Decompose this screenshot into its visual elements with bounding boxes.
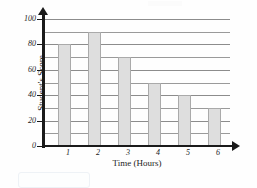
y-axis-arrow — [38, 7, 48, 15]
bar-3 — [118, 57, 131, 146]
y-axis-title-holder: Student's Score — [22, 20, 36, 140]
x-tick-label-2: 2 — [88, 148, 108, 157]
bar-6 — [208, 108, 221, 146]
x-tick-label-6: 6 — [208, 148, 228, 157]
x-tick-label-1: 1 — [58, 148, 78, 157]
bar-1 — [58, 44, 71, 146]
bar-2 — [88, 32, 101, 146]
footer-placeholder-box — [18, 172, 90, 188]
y-tick-0 — [37, 146, 44, 147]
chart-screenshot: 100 80 60 40 20 0 1 2 3 4 5 6 Time (Hour… — [0, 0, 257, 188]
bar-4 — [148, 83, 161, 147]
scan-artifact — [148, 1, 182, 6]
x-tick-label-3: 3 — [118, 148, 138, 157]
bar-series — [44, 19, 230, 146]
x-axis-arrow — [232, 141, 240, 151]
x-axis-line — [42, 145, 234, 147]
y-axis-title: Student's Score — [36, 28, 46, 138]
x-tick-label-4: 4 — [148, 148, 168, 157]
y-tick-label-0: 0 — [32, 141, 36, 150]
x-tick-label-5: 5 — [178, 148, 198, 157]
bar-5 — [178, 95, 191, 146]
y-tick-100 — [37, 19, 44, 20]
x-axis-title: Time (Hours) — [44, 158, 230, 168]
